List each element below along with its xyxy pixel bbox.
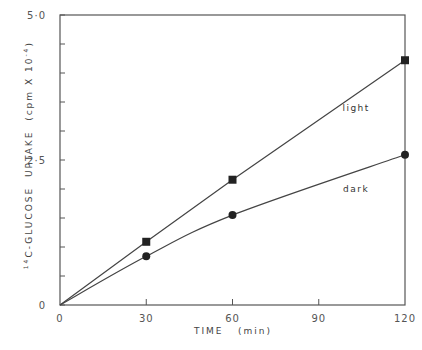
x-axis-title: TIME (min) — [193, 326, 272, 336]
square-marker — [401, 56, 409, 64]
series-label-dark: dark — [343, 184, 369, 194]
series-dark: dark — [60, 151, 409, 305]
y-axis-title: 14C-GLUCOSE UPTAKE (cpm X 10-4) — [22, 17, 34, 304]
circle-marker — [142, 252, 150, 260]
y-axis-title-close: ) — [24, 41, 34, 47]
x-tick-label: 0 — [56, 313, 63, 324]
svg-text:14C-GLUCOSE UPTAKE (cpm X 10: 14C-GLUCOSE UPTAKE (cpm X 10-4) — [22, 17, 34, 304]
series-light: light — [60, 56, 409, 305]
plot-border — [60, 15, 405, 305]
x-tick-label: 120 — [394, 313, 416, 324]
y-axis-title-isotope: 14 — [22, 258, 29, 270]
y-tick-label: 0 — [39, 300, 46, 311]
y-axis-title-main: C-GLUCOSE UPTAKE (cpm X 10 — [24, 57, 34, 258]
series-label-light: light — [342, 103, 369, 113]
x-axis-ticks: 0306090120 — [56, 299, 416, 324]
x-tick-label: 30 — [139, 313, 154, 324]
data-series: lightdark — [60, 56, 409, 305]
y-axis-title-exponent: -4 — [22, 47, 29, 57]
plot-frame — [60, 15, 405, 305]
chart: 02·55·0 0306090120 lightdark TIME (min) … — [0, 0, 422, 350]
x-tick-label: 60 — [225, 313, 240, 324]
circle-marker — [401, 151, 409, 159]
square-marker — [142, 238, 150, 246]
circle-marker — [229, 211, 237, 219]
square-marker — [229, 176, 237, 184]
x-tick-label: 90 — [311, 313, 326, 324]
